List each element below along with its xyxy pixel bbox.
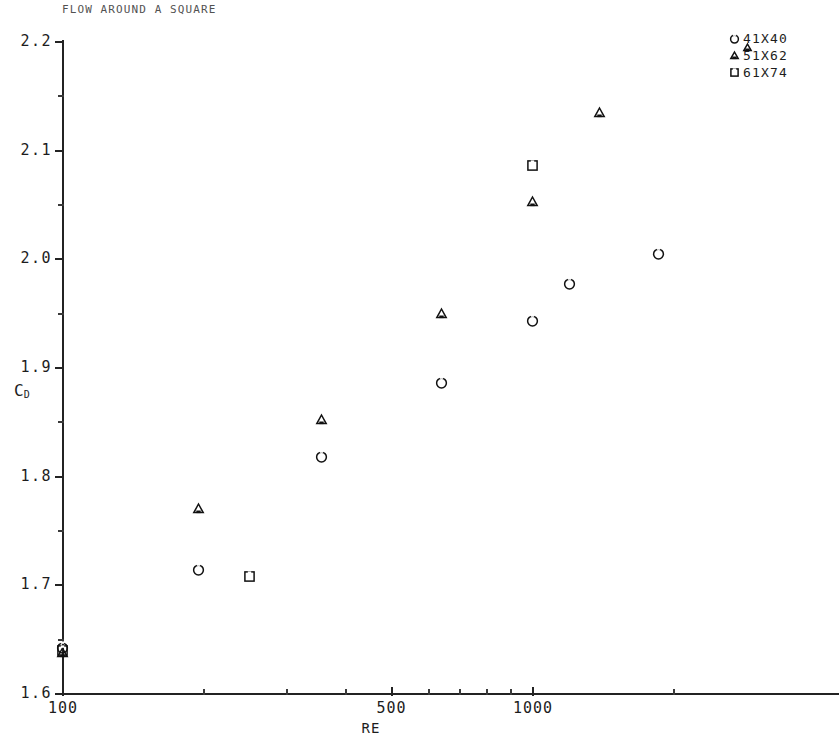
x-tick-label: 1000 bbox=[513, 699, 553, 717]
data-point-circle bbox=[652, 247, 666, 261]
y-tick-label: 2.0 bbox=[0, 249, 52, 267]
data-point-square bbox=[526, 159, 540, 173]
x-axis-label: RE bbox=[362, 720, 381, 736]
legend-label: 51X62 bbox=[743, 48, 788, 63]
legend-label: 41X40 bbox=[743, 31, 788, 46]
y-tick-minor bbox=[58, 313, 64, 315]
y-axis-label-subscript: D bbox=[24, 389, 30, 400]
data-point-triangle bbox=[192, 502, 206, 516]
y-tick-minor bbox=[58, 639, 64, 641]
x-tick-minor bbox=[486, 689, 488, 695]
y-tick-label: 2.1 bbox=[0, 141, 52, 159]
legend-item-61X74[interactable]: 61X74 bbox=[726, 64, 788, 81]
legend-item-51X62[interactable]: 51X62 bbox=[726, 47, 788, 64]
y-tick-major bbox=[55, 476, 64, 478]
x-tick-major bbox=[532, 687, 534, 696]
legend-circle-icon bbox=[726, 31, 743, 46]
data-point-circle bbox=[563, 277, 577, 291]
x-tick-label: 100 bbox=[48, 699, 78, 717]
legend-triangle-icon bbox=[726, 48, 743, 63]
y-tick-major bbox=[55, 258, 64, 260]
x-tick-minor bbox=[673, 689, 675, 695]
y-tick-label: 1.7 bbox=[0, 575, 52, 593]
y-tick-major bbox=[55, 367, 64, 369]
y-tick-minor bbox=[58, 421, 64, 423]
x-tick-minor bbox=[203, 689, 205, 695]
data-point-circle bbox=[315, 450, 329, 464]
y-tick-label: 2.2 bbox=[0, 32, 52, 50]
y-tick-label: 1.9 bbox=[0, 358, 52, 376]
data-point-triangle bbox=[435, 307, 449, 321]
y-axis-label-base: C bbox=[14, 381, 24, 400]
x-tick-minor bbox=[286, 689, 288, 695]
x-axis-line bbox=[62, 693, 839, 695]
y-tick-major bbox=[55, 584, 64, 586]
chart-legend: 41X4051X6261X74 bbox=[726, 30, 788, 81]
x-tick-minor bbox=[428, 689, 430, 695]
x-tick-minor bbox=[345, 689, 347, 695]
x-tick-major bbox=[391, 687, 393, 696]
y-tick-major bbox=[55, 150, 64, 152]
data-point-triangle bbox=[315, 413, 329, 427]
data-point-triangle bbox=[593, 106, 607, 120]
data-point-triangle bbox=[526, 195, 540, 209]
data-point-circle bbox=[526, 314, 540, 328]
x-tick-major bbox=[62, 687, 64, 696]
y-tick-label: 1.8 bbox=[0, 467, 52, 485]
data-point-circle bbox=[192, 563, 206, 577]
legend-label: 61X74 bbox=[743, 65, 788, 80]
y-tick-minor bbox=[58, 204, 64, 206]
y-tick-minor bbox=[58, 530, 64, 532]
y-tick-minor bbox=[58, 95, 64, 97]
x-tick-minor bbox=[459, 689, 461, 695]
legend-square-icon bbox=[726, 65, 743, 80]
data-point-circle bbox=[435, 376, 449, 390]
y-tick-label: 1.6 bbox=[0, 684, 52, 702]
y-tick-major bbox=[55, 41, 64, 43]
x-tick-minor bbox=[510, 689, 512, 695]
legend-item-41X40[interactable]: 41X40 bbox=[726, 30, 788, 47]
x-tick-label: 500 bbox=[376, 699, 406, 717]
data-point-square bbox=[243, 570, 257, 584]
chart-canvas: FLOW AROUND A SQUARE 1.61.71.81.92.02.12… bbox=[0, 0, 839, 746]
y-axis-label: CD bbox=[14, 381, 30, 400]
chart-title: FLOW AROUND A SQUARE bbox=[62, 4, 216, 16]
